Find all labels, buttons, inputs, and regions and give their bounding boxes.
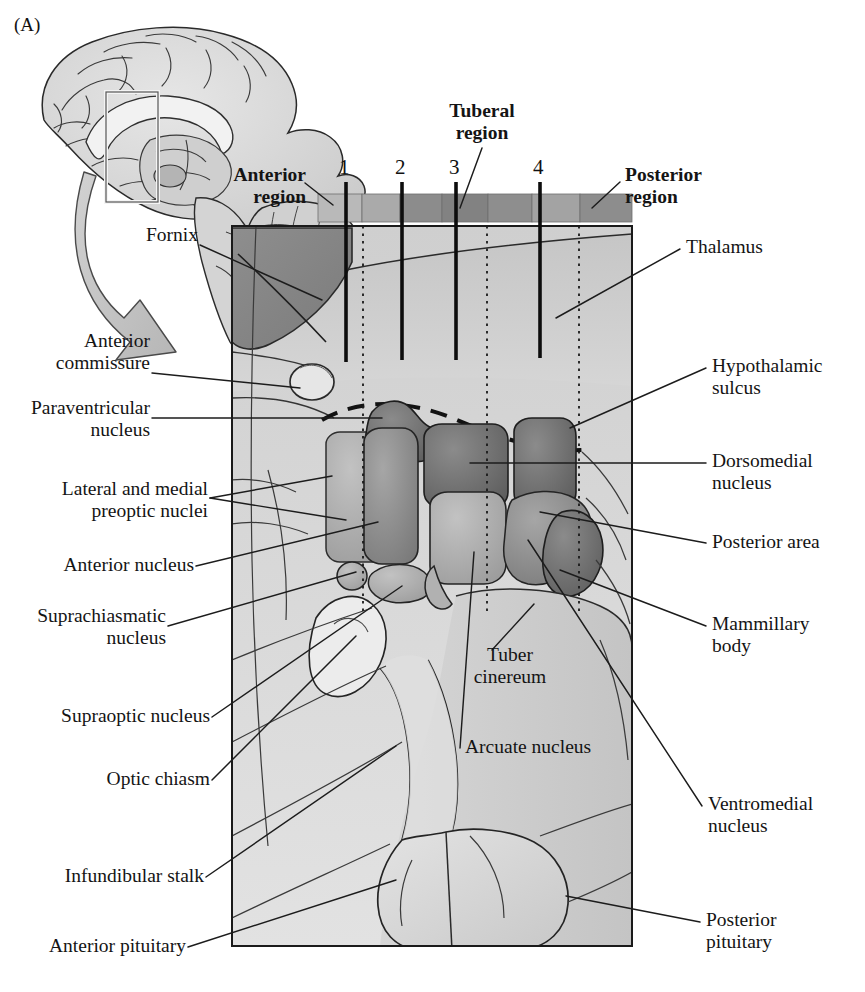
figure-panel: (A)	[0, 0, 865, 992]
region-label-posterior: Posterior region	[625, 164, 765, 208]
section-number-2: 2	[395, 155, 406, 180]
label-ventromedial-nucleus: Ventromedial nucleus	[708, 793, 813, 837]
label-paraventricular-nucleus: Paraventricular nucleus	[4, 397, 150, 441]
label-infundibular-stalk: Infundibular stalk	[18, 865, 204, 887]
label-arcuate-nucleus: Arcuate nucleus	[465, 736, 591, 758]
label-suprachiasmatic-nucleus: Suprachiasmatic nucleus	[4, 605, 166, 649]
label-posterior-pituitary: Posterior pituitary	[706, 909, 776, 953]
label-anterior-nucleus: Anterior nucleus	[10, 554, 194, 576]
section-number-3: 3	[449, 155, 460, 180]
label-thalamus: Thalamus	[686, 236, 763, 258]
section-number-4: 4	[533, 155, 544, 180]
section-number-1: 1	[339, 155, 350, 180]
label-supraoptic-nucleus: Supraoptic nucleus	[6, 705, 210, 727]
label-fornix: Fornix	[60, 224, 198, 246]
label-tuber-cinereum: Tuber cinereum	[455, 644, 565, 688]
label-mammillary-body: Mammillary body	[712, 613, 809, 657]
label-anterior-pituitary: Anterior pituitary	[4, 935, 186, 957]
region-label-anterior: Anterior region	[186, 164, 306, 208]
label-anterior-commissure: Anterior commissure	[8, 330, 150, 374]
region-label-tuberal: Tuberal region	[422, 100, 542, 144]
label-posterior-area: Posterior area	[712, 531, 820, 553]
label-hypothalamic-sulcus: Hypothalamic sulcus	[712, 355, 822, 399]
label-lateral-and-medial-preoptic-nuclei: Lateral and medial preoptic nuclei	[4, 478, 208, 522]
label-optic-chiasm: Optic chiasm	[44, 768, 210, 790]
label-dorsomedial-nucleus: Dorsomedial nucleus	[712, 450, 813, 494]
region-bar	[318, 194, 632, 222]
hypothalamus-section	[232, 226, 632, 950]
